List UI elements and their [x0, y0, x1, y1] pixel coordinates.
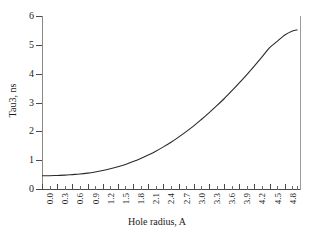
y-tick-label: 6 [14, 11, 34, 21]
x-axis-title: Hole radius, A [0, 216, 314, 227]
x-tick-label: 1.2 [107, 193, 116, 204]
x-tick-label: 4.2 [258, 193, 267, 204]
x-tick-label: 4.5 [274, 193, 283, 204]
x-tick-label: 1.8 [137, 193, 146, 204]
y-axis-title: Tau3, ns [7, 61, 18, 141]
x-tick-label: 3.3 [213, 193, 222, 204]
x-tick-label: 2.1 [152, 193, 161, 204]
y-tick-label: 5 [14, 40, 34, 50]
x-tick-label: 4.8 [289, 193, 298, 204]
x-tick-label: 0.0 [46, 193, 55, 204]
x-tick-label: 0.3 [61, 193, 70, 204]
x-tick-label: 2.7 [183, 193, 192, 204]
x-tick-label: 2.4 [167, 193, 176, 204]
x-tick-label: 3.9 [243, 193, 252, 204]
x-tick-label: 1.5 [122, 193, 131, 204]
x-tick-label: 3.6 [228, 193, 237, 204]
chart-figure: 0123456 0.00.30.60.91.21.51.82.12.42.73.… [0, 0, 314, 239]
y-tick-label: 1 [14, 155, 34, 165]
x-tick-label: 0.9 [92, 193, 101, 204]
x-tick-label: 3.0 [198, 193, 207, 204]
x-tick-label: 0.6 [76, 193, 85, 204]
data-curve [42, 16, 301, 190]
y-tick-label: 0 [14, 184, 34, 194]
